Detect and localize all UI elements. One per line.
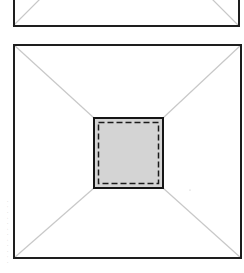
diagram-svg: [0, 0, 244, 273]
main-diagonal-bottom-right: [163, 188, 241, 258]
main-diagonal-top-right: [163, 45, 241, 118]
diagram-canvas: · · · · · · · · · · · ·: [0, 0, 244, 273]
top-panel-diagonal-right: [207, 0, 239, 26]
main-diagonal-top-left: [14, 45, 94, 118]
side-caption: · · · · · · · · · · · ·: [5, 143, 11, 263]
inner-square-fill: [94, 118, 163, 188]
main-diagonal-bottom-left: [14, 188, 94, 258]
top-panel-diagonal-left: [13, 0, 45, 26]
speck-mark: [189, 189, 190, 190]
top-panel: [13, 0, 239, 26]
inner-square: [94, 118, 163, 188]
top-panel-frame: [14, 0, 239, 26]
